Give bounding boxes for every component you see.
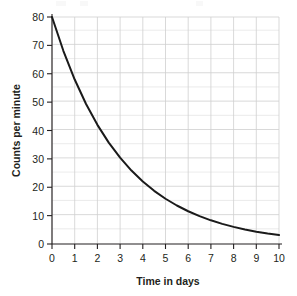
decay-chart-canvas: 80 70 60 50 40 30 20 10 0 0 1 2 3 4 5 6 … [0,0,297,296]
y-axis-title: Counts per minute [10,84,22,177]
x-tick-label: 0 [49,252,55,264]
y-tick-label: 0 [38,238,44,250]
y-tick-label: 30 [32,153,44,165]
x-axis-tick-marks [52,244,279,249]
top-edge-artifact-mid [80,1,88,6]
y-tick-label: 50 [32,96,44,108]
y-axis-title-group: Counts per minute [10,84,22,177]
x-tick-label: 7 [208,252,214,264]
y-tick-label: 40 [32,125,44,137]
chart-figure: 80 70 60 50 40 30 20 10 0 0 1 2 3 4 5 6 … [0,0,297,296]
x-axis-tick-labels: 0 1 2 3 4 5 6 7 8 9 10 [49,252,285,264]
x-tick-label: 1 [72,252,78,264]
y-tick-label: 10 [32,210,44,222]
x-tick-label: 5 [163,252,169,264]
y-tick-label: 70 [32,39,44,51]
top-edge-artifact-left [56,1,66,6]
x-tick-label: 10 [273,252,285,264]
x-tick-label: 2 [94,252,100,264]
y-axis-tick-labels: 80 70 60 50 40 30 20 10 0 [32,11,44,250]
y-tick-label: 80 [32,11,44,23]
y-axis-tick-marks [47,17,52,244]
x-tick-label: 3 [117,252,123,264]
x-tick-label: 4 [140,252,146,264]
x-tick-label: 9 [253,252,259,264]
x-tick-label: 6 [185,252,191,264]
x-axis-title: Time in days [136,275,200,287]
y-tick-label: 60 [32,68,44,80]
y-tick-label: 20 [32,181,44,193]
x-tick-label: 8 [231,252,237,264]
x-axis-title-group: Time in days [136,275,200,287]
top-edge-artifact-right [196,1,203,6]
